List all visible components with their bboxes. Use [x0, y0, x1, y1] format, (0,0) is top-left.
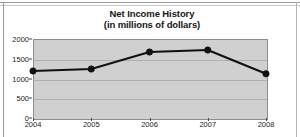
chart-title-subtitle: (in millions of dollars): [28, 19, 276, 30]
y-axis-tick-mark: [29, 78, 32, 79]
y-axis-tick-label: 500: [3, 94, 29, 103]
x-axis-tick-label: 2007: [188, 120, 228, 129]
y-axis-tick-label: 2000: [3, 35, 29, 44]
frame-border-top: [0, 2, 300, 3]
gridlines: [34, 40, 267, 119]
gridline: [34, 99, 267, 100]
y-axis-tick-mark: [29, 39, 32, 40]
gridline: [34, 60, 267, 61]
x-axis-tick-label: 2005: [71, 120, 111, 129]
x-axis-labels: 20042005200620072008: [0, 120, 300, 134]
y-axis-tick-mark: [29, 98, 32, 99]
y-axis-tick-label: 1500: [3, 54, 29, 63]
x-axis-tick-label: 2004: [13, 120, 53, 129]
y-axis-tick-label: 1000: [3, 74, 29, 83]
chart-figure: Net Income History (in millions of dolla…: [0, 0, 300, 137]
x-axis-tick-label: 2006: [130, 120, 170, 129]
y-axis-tick-mark: [29, 58, 32, 59]
frame-border-top-secondary: [0, 5, 300, 6]
x-axis-tick-mark: [91, 118, 92, 121]
frame-border-right: [296, 2, 297, 137]
x-axis-tick-label: 2008: [246, 120, 286, 129]
x-axis-tick-mark: [266, 118, 267, 121]
x-axis-tick-mark: [33, 118, 34, 121]
gridline: [34, 80, 267, 81]
y-axis-tick-mark: [29, 118, 32, 119]
x-axis-tick-mark: [208, 118, 209, 121]
y-axis-labels: 0500100015002000: [0, 39, 29, 118]
plot-area: [33, 39, 268, 120]
chart-title-main: Net Income History: [28, 8, 276, 19]
chart-title: Net Income History (in millions of dolla…: [28, 8, 276, 30]
x-axis-tick-mark: [150, 118, 151, 121]
